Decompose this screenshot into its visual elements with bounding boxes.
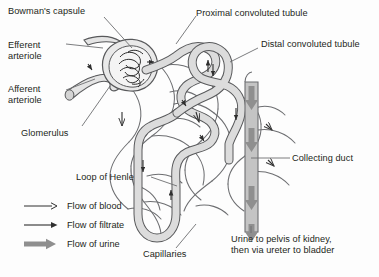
legend-label-flow-of-urine: Flow of urine (67, 239, 120, 249)
legend-label-flow-of-filtrate: Flow of filtrate (67, 220, 124, 230)
thick-block-arrow-icon (22, 238, 62, 250)
legend-item-flow-of-filtrate: Flow of filtrate (22, 218, 124, 232)
label-glomerulus: Glomerulus (21, 128, 68, 139)
legend-label-flow-of-blood: Flow of blood (67, 201, 122, 211)
nephron-diagram: Bowman's capsule Efferent arteriole Affe… (0, 0, 379, 277)
legend-item-flow-of-urine: Flow of urine (22, 237, 124, 251)
label-urine-destination: Urine to pelvis of kidney, then via uret… (231, 234, 334, 256)
label-proximal-convoluted-tubule: Proximal convoluted tubule (196, 8, 308, 19)
label-bowmans-capsule: Bowman's capsule (8, 6, 85, 17)
label-loop-of-henle: Loop of Henle (76, 172, 134, 183)
label-distal-convoluted-tubule: Distal convoluted tubule (261, 39, 360, 50)
label-afferent-arteriole: Afferent arteriole (8, 84, 42, 106)
legend-item-flow-of-blood: Flow of blood (22, 199, 124, 213)
thin-open-arrow-icon (22, 200, 62, 212)
label-collecting-duct: Collecting duct (292, 153, 353, 164)
thin-solid-arrow-icon (22, 219, 62, 231)
legend: Flow of blood Flow of filtrate Flow of u… (22, 199, 124, 251)
label-capillaries: Capillaries (143, 249, 186, 260)
label-efferent-arteriole: Efferent arteriole (8, 40, 42, 62)
